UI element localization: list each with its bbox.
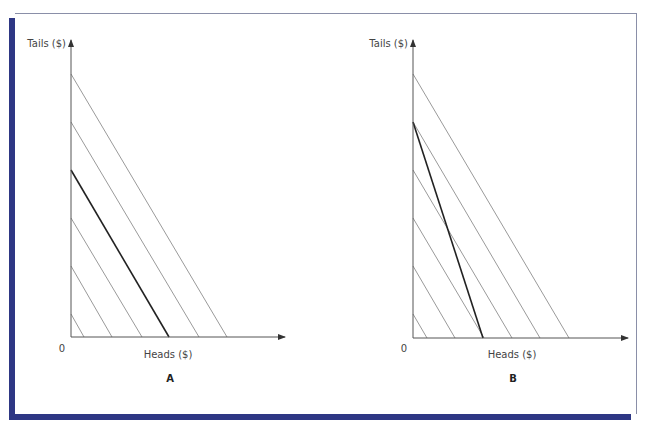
figure-canvas: Tails ($) Heads ($) 0 A Tails ($) Heads … [0, 0, 650, 427]
panel-label: A [166, 373, 174, 384]
x-axis-label: Heads ($) [488, 349, 537, 360]
iso-line [71, 218, 142, 337]
iso-line [71, 314, 84, 337]
y-axis-label: Tails ($) [26, 38, 66, 49]
iso-line [71, 74, 227, 337]
bold-line [71, 170, 169, 337]
iso-lines [413, 74, 569, 338]
iso-line [71, 122, 199, 337]
y-axis-label: Tails ($) [368, 38, 408, 49]
iso-lines [71, 74, 227, 337]
iso-line [413, 314, 427, 338]
iso-line [413, 122, 540, 338]
x-axis-label: Heads ($) [144, 349, 193, 360]
bold-line [413, 122, 483, 338]
iso-line [413, 74, 569, 338]
panel-b: Tails ($) Heads ($) 0 B [368, 38, 628, 384]
panel-label: B [509, 373, 517, 384]
iso-line [413, 266, 455, 338]
origin-label: 0 [59, 343, 65, 354]
panel-a: Tails ($) Heads ($) 0 A [26, 38, 285, 384]
iso-line [413, 170, 512, 338]
origin-label: 0 [401, 343, 407, 354]
iso-line [413, 218, 484, 338]
